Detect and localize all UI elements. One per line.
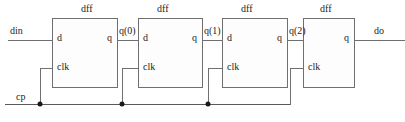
net-label-din: din	[10, 26, 23, 36]
net-label-q0: q(0)	[119, 26, 136, 36]
clk-stub-v-1	[40, 68, 41, 105]
net-label-do: do	[374, 26, 384, 36]
wire-dff4-to-do	[355, 40, 405, 41]
dff-block-3[interactable]	[222, 18, 288, 88]
dff-title-2: dff	[157, 4, 168, 14]
pin-q-3: q	[277, 33, 282, 43]
clk-stub-h-2	[122, 68, 138, 69]
clk-stub-v-4	[290, 68, 291, 105]
clk-stub-v-3	[208, 68, 209, 105]
junction-dot-2	[120, 102, 125, 107]
wire-q2-to-dff4	[288, 40, 303, 41]
dff-block-2[interactable]	[138, 18, 203, 88]
wire-q1-to-dff3	[203, 40, 222, 41]
pin-clk-4: clk	[308, 62, 320, 72]
pin-d-3: d	[227, 33, 232, 43]
clk-stub-v-2	[122, 68, 123, 105]
wire-q0-to-dff2	[118, 40, 138, 41]
pin-clk-1: clk	[57, 62, 69, 72]
pin-clk-3: clk	[227, 62, 239, 72]
net-label-cp: cp	[16, 92, 25, 102]
net-label-q2: q(2)	[289, 26, 306, 36]
clk-stub-h-1	[40, 68, 52, 69]
pin-q-4: q	[344, 33, 349, 43]
junction-dot-1	[38, 102, 43, 107]
pin-clk-2: clk	[143, 62, 155, 72]
dff-title-4: dff	[320, 4, 331, 14]
dff-title-1: dff	[81, 4, 92, 14]
pin-d-1: d	[57, 33, 62, 43]
clk-stub-h-3	[208, 68, 222, 69]
dff-block-1[interactable]	[52, 18, 118, 88]
dff-block-4[interactable]	[303, 18, 355, 88]
schematic-canvas: dff dff dff dff d d d q q q q clk clk cl…	[0, 0, 405, 122]
net-label-q1: q(1)	[204, 26, 221, 36]
pin-q-2: q	[192, 33, 197, 43]
pin-d-2: d	[143, 33, 148, 43]
wire-din-to-dff1	[8, 40, 52, 41]
clock-bus	[5, 104, 290, 105]
clk-stub-h-4	[290, 68, 303, 69]
dff-title-3: dff	[241, 4, 252, 14]
junction-dot-3	[206, 102, 211, 107]
pin-q-1: q	[107, 33, 112, 43]
